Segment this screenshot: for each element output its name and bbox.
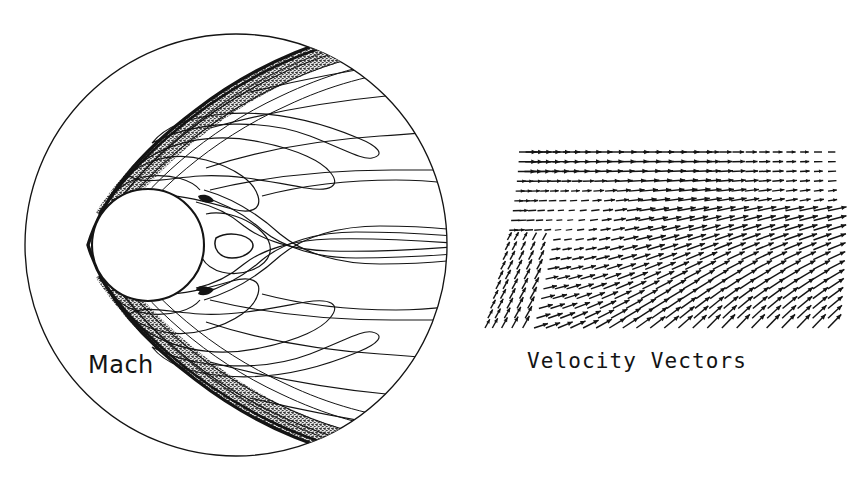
- velocity-vector-head: [792, 169, 796, 173]
- velocity-vector: [579, 220, 586, 221]
- velocity-vector-head: [728, 178, 733, 182]
- velocity-vector-head: [780, 179, 784, 183]
- velocity-vector-head: [741, 233, 747, 237]
- velocity-vector-head: [766, 160, 770, 164]
- velocity-vector-head: [685, 252, 691, 256]
- quiver-field: [485, 150, 847, 328]
- velocity-vector-svg: [460, 0, 858, 485]
- velocity-vector-head: [741, 169, 746, 173]
- velocity-vector-head: [811, 233, 817, 237]
- velocity-vector-head: [779, 169, 783, 173]
- mach-panel-caption: Mach: [88, 351, 154, 379]
- velocity-vector: [543, 233, 547, 240]
- velocity-vector-head: [521, 228, 525, 231]
- velocity-vector-head: [555, 189, 559, 192]
- velocity-vector: [576, 239, 584, 240]
- velocity-vector-head: [547, 179, 551, 183]
- wake-shear-layers: [196, 190, 456, 300]
- velocity-vector-head: [584, 302, 590, 306]
- velocity-vector-head: [600, 189, 604, 193]
- velocity-vector-head: [699, 243, 705, 247]
- velocity-vector-head: [673, 244, 679, 248]
- velocity-vector-head: [740, 160, 745, 164]
- velocity-vector-head: [687, 234, 693, 238]
- velocity-vector-head: [616, 273, 622, 277]
- velocity-vector: [567, 220, 573, 221]
- velocity-vector-head: [819, 179, 823, 182]
- velocity-vector: [591, 210, 599, 211]
- mach-contour-panel: Mach: [0, 0, 460, 485]
- velocity-vector-head: [779, 160, 783, 164]
- velocity-vector-head: [576, 284, 581, 288]
- velocity-vector-head: [645, 253, 651, 257]
- velocity-vector-head: [659, 244, 665, 248]
- velocity-vector-head: [601, 283, 607, 287]
- figure-root: Mach Velocity Vectors: [0, 0, 858, 485]
- velocity-vector-head: [715, 150, 720, 154]
- velocity-vector: [546, 220, 552, 221]
- velocity-vector-head: [798, 224, 804, 228]
- velocity-vector-head: [534, 199, 538, 202]
- velocity-vector: [570, 200, 577, 201]
- velocity-vector-head: [727, 150, 731, 154]
- contour-field: [88, 24, 456, 466]
- velocity-vector-head: [572, 303, 578, 307]
- velocity-vector-head: [754, 179, 759, 183]
- velocity-vector: [534, 230, 542, 231]
- velocity-vector-head: [644, 263, 650, 267]
- velocity-vector-head: [779, 150, 783, 154]
- velocity-vector: [581, 200, 589, 201]
- velocity-vector-panel: Velocity Vectors: [460, 0, 858, 485]
- velocity-vector-head: [588, 189, 592, 193]
- velocity-vector-head: [770, 224, 776, 228]
- velocity-vector-head: [797, 233, 803, 237]
- velocity-vector-head: [557, 179, 561, 183]
- velocity-vector: [536, 220, 543, 221]
- velocity-vector-head: [657, 262, 663, 266]
- velocity-vector-head: [570, 312, 576, 316]
- velocity-vector-head: [614, 282, 620, 286]
- velocity-vector-head: [603, 274, 609, 278]
- velocity-vector-head: [524, 209, 528, 212]
- velocity-vector: [577, 229, 584, 230]
- velocity-vector-head: [784, 224, 790, 228]
- velocity-vector-head: [629, 272, 635, 276]
- velocity-vector-head: [826, 233, 832, 237]
- velocity-vector-head: [812, 224, 818, 228]
- velocity-vector: [566, 229, 572, 230]
- velocity-vector-head: [545, 313, 550, 317]
- velocity-vector-head: [604, 264, 609, 268]
- velocity-vector-head: [576, 189, 580, 192]
- velocity-vector: [532, 233, 536, 240]
- velocity-vector-head: [671, 253, 677, 257]
- velocity-vector-head: [840, 233, 846, 237]
- velocity-vector-head: [560, 303, 565, 307]
- velocity-vector-head: [555, 322, 560, 326]
- velocity-vector-head: [841, 224, 847, 228]
- velocity-vector-head: [767, 179, 772, 183]
- velocity-vector-head: [766, 169, 770, 173]
- velocity-vector-head: [701, 234, 707, 238]
- velocity-vector: [553, 239, 561, 240]
- velocity-vector-head: [658, 253, 664, 257]
- velocity-vector-head: [805, 150, 809, 153]
- velocity-vector-head: [686, 243, 692, 247]
- velocity-vector: [564, 239, 572, 240]
- velocity-vector-head: [545, 189, 549, 192]
- velocity-vector-head: [769, 233, 775, 237]
- velocity-vector-head: [578, 179, 582, 183]
- velocity-vector-head: [613, 189, 618, 193]
- velocity-vectors-caption: Velocity Vectors: [527, 349, 747, 373]
- velocity-vector-head: [741, 178, 746, 182]
- velocity-vector-head: [728, 160, 733, 164]
- velocity-vector-head: [826, 224, 832, 228]
- velocity-vector-head: [806, 179, 810, 183]
- velocity-vector: [828, 181, 836, 182]
- velocity-vector-head: [806, 170, 810, 174]
- velocity-vector: [555, 230, 561, 231]
- velocity-vector-head: [713, 243, 719, 247]
- velocity-vector-head: [742, 224, 748, 228]
- velocity-vector: [569, 210, 575, 211]
- velocity-vector-head: [755, 233, 761, 237]
- velocity-vector-head: [753, 160, 757, 164]
